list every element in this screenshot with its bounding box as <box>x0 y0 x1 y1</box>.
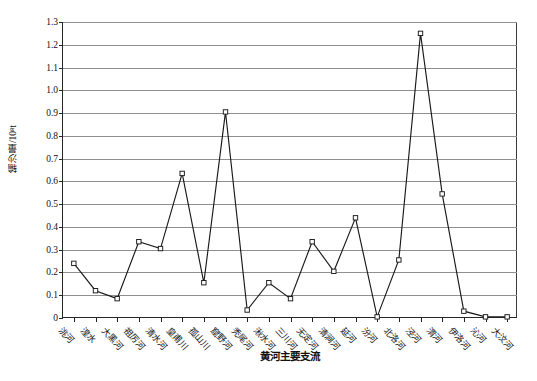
y-tick-label: 0.1 <box>46 290 58 300</box>
data-point-marker <box>72 261 76 265</box>
data-point-marker <box>137 240 141 244</box>
x-axis-title: 黄河主要支流 <box>62 348 517 363</box>
data-point-marker <box>397 258 401 262</box>
data-point-marker <box>310 240 314 244</box>
data-point-marker <box>267 281 271 285</box>
x-tick-label: 汾河 <box>358 324 380 346</box>
data-point-marker <box>332 269 336 273</box>
x-tick-label: 洮河 <box>55 324 77 346</box>
data-point-marker <box>93 288 97 292</box>
y-tick-label: 0.7 <box>46 154 58 164</box>
chart-figure: 输沙量/10⁸t 00.10.20.30.40.50.60.70.80.91.0… <box>0 0 537 381</box>
data-point-marker <box>483 315 487 319</box>
y-tick-label: 1.1 <box>46 63 58 73</box>
data-point-marker <box>115 296 119 300</box>
y-tick-label: 0.2 <box>46 267 58 277</box>
y-tick-label: 0.6 <box>46 176 58 186</box>
series-line <box>74 33 507 316</box>
data-point-marker <box>223 110 227 114</box>
data-series <box>63 22 518 318</box>
y-tick-label: 0.3 <box>46 245 58 255</box>
plot-area: 00.10.20.30.40.50.60.70.80.91.01.11.21.3… <box>62 22 517 318</box>
data-point-marker <box>462 309 466 313</box>
y-tick-label: 1.0 <box>46 85 58 95</box>
data-point-marker <box>158 246 162 250</box>
data-point-marker <box>288 296 292 300</box>
x-tick-label: 渭河 <box>423 324 445 346</box>
y-tick-mark <box>59 318 63 319</box>
y-tick-label: 0.4 <box>46 222 58 232</box>
y-tick-label: 1.3 <box>46 17 58 27</box>
x-tick-label: 湟水 <box>77 324 99 346</box>
y-tick-label: 0 <box>53 313 58 323</box>
y-tick-label: 0.8 <box>46 131 58 141</box>
data-point-marker <box>505 315 509 319</box>
y-axis-title: 输沙量/10⁸t <box>8 125 30 173</box>
data-point-marker <box>440 192 444 196</box>
y-tick-label: 0.5 <box>46 199 58 209</box>
y-tick-label: 1.2 <box>46 40 58 50</box>
data-point-marker <box>180 171 184 175</box>
data-point-marker <box>353 216 357 220</box>
y-tick-label: 0.9 <box>46 108 58 118</box>
data-point-marker <box>375 315 379 319</box>
data-point-marker <box>202 281 206 285</box>
data-point-marker <box>245 308 249 312</box>
data-point-marker <box>418 31 422 35</box>
